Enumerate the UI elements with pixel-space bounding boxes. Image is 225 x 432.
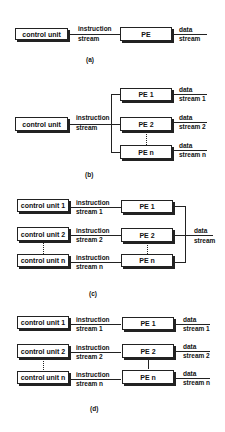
interconnect-line — [148, 359, 149, 369]
branch-line — [111, 94, 112, 152]
pe-1-box: PE 1 — [121, 200, 173, 213]
stream-label: stream — [76, 125, 97, 132]
instruction-label: instruction — [76, 255, 110, 262]
stream-label: stream 1 — [179, 96, 206, 103]
stream-label: stream — [78, 36, 99, 43]
pe-2-box: PE 2 — [120, 117, 172, 131]
caption-c: (c) — [89, 290, 97, 297]
instruction-label: instruction — [76, 228, 110, 235]
pe-2-box: PE 2 — [121, 228, 173, 242]
stream-label: stream — [194, 238, 215, 245]
stream-label: stream 2 — [76, 237, 103, 244]
data-label: data — [183, 344, 196, 351]
data-label: data — [183, 317, 196, 324]
stream-label: stream n — [76, 381, 103, 388]
pe-2-box: PE 2 — [122, 344, 174, 358]
data-stream-label: stream — [179, 36, 200, 43]
stream-label: stream 1 — [183, 326, 210, 333]
stream-label: stream 1 — [76, 209, 103, 216]
stream-label: stream n — [76, 264, 103, 271]
control-unit-box: control unit — [15, 117, 68, 131]
stream-label: stream 2 — [183, 353, 210, 360]
control-unit-n-box: control unit n — [17, 371, 69, 384]
control-unit-n-box: control unit n — [17, 254, 69, 267]
pe-1-box: PE 1 — [120, 88, 172, 101]
stream-label: stream n — [183, 380, 210, 387]
stream-label: stream n — [179, 152, 206, 159]
data-label: data — [183, 371, 196, 378]
merge-1 — [173, 206, 185, 207]
pe-n-box: PE n — [121, 254, 173, 267]
ellipsis-line — [43, 359, 45, 370]
pe-1-box: PE 1 — [122, 317, 174, 330]
instruction-label: instruction — [78, 26, 112, 33]
instruction-label: instruction — [76, 372, 110, 379]
control-unit-box: control unit — [15, 28, 68, 40]
instruction-label: instruction — [76, 115, 110, 122]
control-unit-1-box: control unit 1 — [17, 199, 69, 212]
control-unit-1-box: control unit 1 — [17, 316, 69, 329]
ellipsis-line — [147, 243, 149, 254]
data-label: data — [179, 87, 192, 94]
data-label: data — [194, 228, 207, 235]
data-label: data — [179, 143, 192, 150]
instruction-label: instruction — [76, 345, 110, 352]
control-unit-2-box: control unit 2 — [17, 227, 69, 241]
caption-d: (d) — [90, 405, 98, 412]
pe-n-box: PE n — [120, 145, 172, 159]
branch-pe1 — [111, 94, 120, 95]
data-stream-line — [173, 235, 213, 236]
caption-a: (a) — [86, 56, 94, 63]
instruction-label: instruction — [76, 200, 110, 207]
control-unit-2-box: control unit 2 — [17, 344, 69, 358]
caption-b: (b) — [85, 171, 93, 178]
instruction-label: instruction — [76, 317, 110, 324]
stream-label: stream 2 — [76, 354, 103, 361]
stream-label: stream 1 — [76, 326, 103, 333]
stream-label: stream 2 — [179, 124, 206, 131]
data-label: data — [179, 27, 192, 34]
ellipsis-line — [43, 242, 45, 254]
merge-n — [173, 262, 185, 263]
pe-n-box: PE n — [122, 370, 174, 384]
branch-pen — [111, 152, 120, 153]
ellipsis-line — [146, 132, 148, 145]
pe-box: PE — [120, 27, 172, 41]
data-label: data — [179, 115, 192, 122]
